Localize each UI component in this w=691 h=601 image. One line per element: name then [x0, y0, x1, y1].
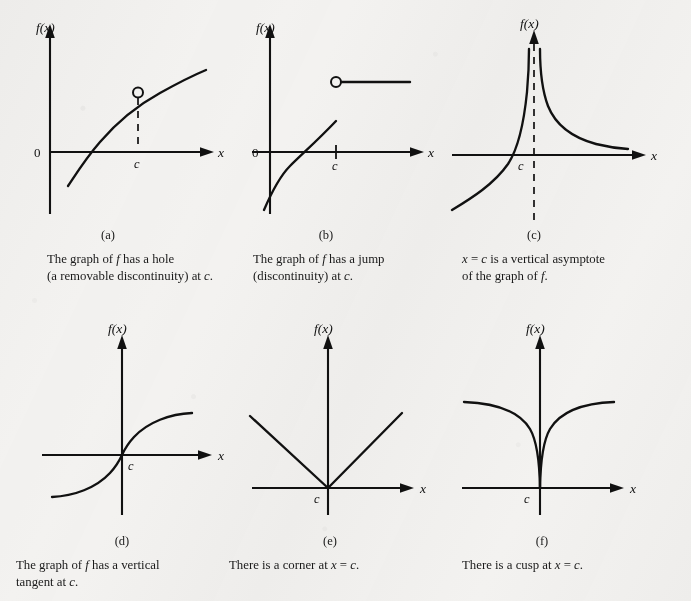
left-asymptote-branch: [452, 49, 529, 210]
cusp-left-branch: [464, 402, 540, 488]
y-axis-label: f(x): [36, 20, 55, 35]
panel-c-label: (c): [504, 228, 564, 243]
x-axis-arrowhead: [200, 147, 214, 157]
c-label: c: [134, 157, 140, 171]
panel-f-label: (f): [512, 534, 572, 549]
corner-right-arm: [328, 413, 402, 488]
panel-c-caption-line2: of the graph of f.: [462, 268, 605, 285]
panel-a-caption-line1: The graph of f has a hole: [47, 251, 213, 268]
panel-e-label: (e): [300, 534, 360, 549]
open-circle-hole: [133, 88, 143, 98]
calculus-discontinuity-figure: f(x) 0 c x (a) The graph of f has a hole…: [0, 0, 691, 601]
x-axis-label: x: [629, 481, 636, 496]
panel-b-caption-line1: The graph of f has a jump: [253, 251, 385, 268]
y-axis-label: f(x): [108, 321, 127, 336]
x-axis-arrowhead: [610, 483, 624, 493]
y-axis-label: f(x): [314, 321, 333, 336]
panel-d-caption: The graph of f has a vertical tangent at…: [16, 557, 160, 591]
y-axis-arrowhead: [535, 335, 545, 349]
x-axis-label: x: [650, 148, 657, 163]
c-label: c: [332, 159, 338, 173]
panel-a-graph: f(x) 0 c x: [28, 18, 228, 233]
panel-d-caption-line1: The graph of f has a vertical: [16, 557, 160, 574]
y-axis-label: f(x): [526, 321, 545, 336]
y-axis-arrowhead: [323, 335, 333, 349]
y-axis-label: f(x): [256, 20, 275, 35]
panel-c-graph: f(x) c x: [450, 18, 680, 233]
panel-a-caption: The graph of f has a hole (a removable d…: [47, 251, 213, 285]
panel-e-caption: There is a corner at x = c.: [229, 557, 359, 574]
panel-d-label: (d): [92, 534, 152, 549]
c-label: c: [518, 159, 524, 173]
panel-f-caption-line1: There is a cusp at x = c.: [462, 557, 583, 574]
lower-branch-curve: [264, 121, 336, 210]
panel-e-graph: f(x) c x: [250, 325, 460, 530]
x-axis-arrowhead: [198, 450, 212, 460]
panel-e-caption-line1: There is a corner at x = c.: [229, 557, 359, 574]
open-circle-jump: [331, 77, 341, 87]
x-axis-label: x: [427, 145, 434, 160]
panel-a-label: (a): [78, 228, 138, 243]
c-label: c: [314, 492, 320, 506]
y-axis-arrowhead: [117, 335, 127, 349]
x-axis-label: x: [419, 481, 426, 496]
x-axis-label: x: [217, 448, 224, 463]
panel-d-graph: f(x) c x: [40, 325, 250, 530]
origin-label: 0: [34, 145, 41, 160]
x-axis-arrowhead: [400, 483, 414, 493]
corner-left-arm: [250, 416, 328, 488]
cusp-right-branch: [540, 402, 614, 488]
x-axis-label: x: [217, 145, 224, 160]
origin-label: 0: [252, 145, 259, 160]
panel-f-graph: f(x) c x: [462, 325, 677, 530]
c-label: c: [128, 459, 134, 473]
x-axis-arrowhead: [410, 147, 424, 157]
c-label: c: [524, 492, 530, 506]
x-axis-arrowhead: [632, 150, 646, 160]
asymptote-arrowhead: [529, 30, 539, 44]
panel-a-caption-line2: (a removable discontinuity) at c.: [47, 268, 213, 285]
right-asymptote-branch: [540, 49, 628, 149]
panel-b-caption: The graph of f has a jump (discontinuity…: [253, 251, 385, 285]
panel-c-caption: x = c is a vertical asymptote of the gra…: [462, 251, 605, 285]
panel-f-caption: There is a cusp at x = c.: [462, 557, 583, 574]
panel-b-caption-line2: (discontinuity) at c.: [253, 268, 385, 285]
panel-d-caption-line2: tangent at c.: [16, 574, 160, 591]
panel-b-graph: f(x) 0 c x: [248, 18, 448, 233]
panel-b-label: (b): [296, 228, 356, 243]
y-axis-label: f(x): [520, 16, 539, 31]
panel-c-caption-line1: x = c is a vertical asymptote: [462, 251, 605, 268]
